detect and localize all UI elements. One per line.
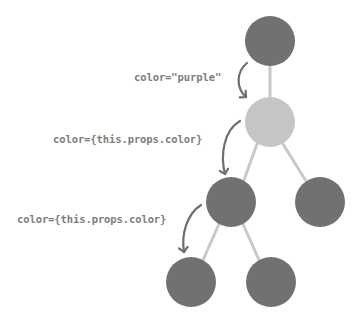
node-great-grandchild-left [166, 257, 216, 307]
tree-diagram [0, 0, 359, 320]
curved-arrow-icon [223, 121, 240, 174]
edge-child-grandchild-right [283, 144, 306, 181]
node-child [245, 97, 295, 147]
prop-label-this-props-color-2: color={this.props.color} [17, 213, 166, 225]
edge-grandchild-left-great-right [243, 224, 259, 260]
curved-arrow-icon [239, 63, 247, 97]
curved-arrow-icon [183, 205, 201, 252]
node-grandchild-left [206, 177, 256, 227]
tree-nodes [166, 16, 345, 307]
node-great-grandchild-right [246, 257, 296, 307]
edge-child-grandchild-left [244, 144, 257, 180]
prop-label-purple: color="purple" [134, 71, 221, 83]
tree-edges [203, 66, 306, 260]
node-root [245, 16, 295, 66]
prop-label-this-props-color-1: color={this.props.color} [53, 133, 202, 145]
edge-grandchild-left-great-left [203, 224, 219, 260]
node-grandchild-right [295, 177, 345, 227]
